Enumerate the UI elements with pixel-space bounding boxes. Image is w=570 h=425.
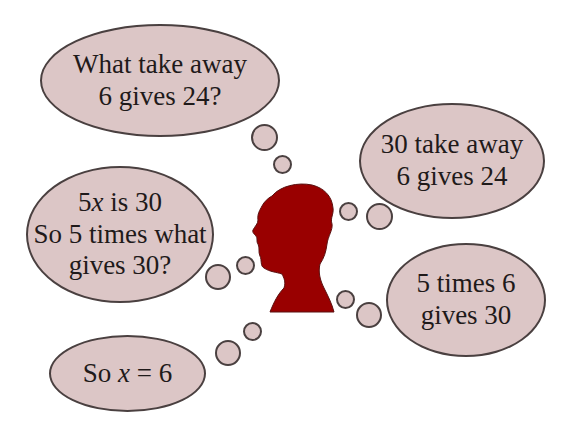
bubble-text-line: So 5 times what xyxy=(33,219,206,251)
thought-diagram: What take away 6 gives 24? 30 take away … xyxy=(0,0,570,425)
bubble-text-line: gives 30 xyxy=(421,300,512,332)
thought-dot xyxy=(336,290,355,309)
equation-rest: is 30 xyxy=(103,187,162,217)
so-label: So xyxy=(83,358,118,388)
thought-dot xyxy=(366,203,393,230)
thought-bubble-5-times-6: 5 times 6 gives 30 xyxy=(386,243,546,357)
bubble-text-line: 5 times 6 xyxy=(417,268,516,300)
thought-dot xyxy=(205,264,231,290)
thought-bubble-5x-is-30: 5x is 30 So 5 times what gives 30? xyxy=(26,166,214,303)
coefficient: 5 xyxy=(78,187,92,217)
thought-bubble-so-x-equals-6: So x = 6 xyxy=(49,335,206,412)
head-silhouette-icon xyxy=(250,180,338,315)
thought-dot xyxy=(251,124,278,151)
variable-x: x xyxy=(92,187,104,217)
equals-six: = 6 xyxy=(130,358,172,388)
variable-x: x xyxy=(118,358,130,388)
bubble-text-line: 5x is 30 xyxy=(78,187,162,219)
thought-bubble-30-take-away: 30 take away 6 gives 24 xyxy=(359,103,545,219)
bubble-text-line: gives 30? xyxy=(69,250,172,282)
thought-bubble-what-take-away: What take away 6 gives 24? xyxy=(40,24,280,137)
thought-dot xyxy=(339,202,358,221)
thought-dot xyxy=(215,340,241,366)
bubble-text-line: 30 take away xyxy=(381,129,523,161)
bubble-text-line: So x = 6 xyxy=(83,358,173,390)
thought-dot xyxy=(356,302,382,328)
bubble-text-line: 6 gives 24? xyxy=(99,81,222,113)
bubble-text-line: 6 gives 24 xyxy=(397,161,508,193)
thought-dot xyxy=(243,322,262,341)
thought-dot xyxy=(273,155,292,174)
bubble-text-line: What take away xyxy=(73,49,247,81)
